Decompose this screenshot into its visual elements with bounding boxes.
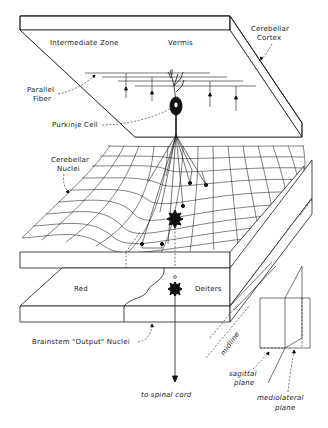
brainstem-output-leader	[138, 326, 152, 342]
mediolateral-plane-leader	[288, 352, 294, 392]
nuclei-terminals	[140, 170, 207, 248]
to-spinal-cord-label: to spinal cord	[141, 391, 192, 399]
vermis-label: Vermis	[168, 39, 193, 47]
nucleus-cell-icon	[167, 210, 183, 228]
sagittal-plane-leader	[253, 353, 268, 369]
cerebellar-nuclei-label-2: Nuclei	[57, 165, 80, 173]
deiters-nucleus-label: Deiters	[195, 285, 222, 293]
purkinje-cell-label: Purkinje Cell	[52, 121, 98, 129]
orientation-planes	[260, 266, 310, 383]
parallel-fiber-label-2: Fiber	[33, 95, 51, 103]
arrowhead-icon	[261, 57, 263, 60]
cerebellar-cortex-label-1: Cerebellar	[251, 25, 289, 33]
arrowhead-icon	[293, 350, 296, 353]
cerebellum-output-diagram: Intermediate Zone Vermis Cerebellar Cort…	[0, 0, 328, 428]
sagittal-plane-label-2: plane	[233, 379, 254, 387]
arrowhead-icon	[151, 324, 154, 327]
arrowhead-icon	[66, 190, 69, 193]
mediolateral-plane-label-1: mediolateral	[257, 394, 304, 402]
intermediate-zone-label: Intermediate Zone	[50, 39, 119, 47]
arrow-down-icon	[173, 376, 178, 382]
brainstem-output-nuclei-label: Brainstem "Output" Nuclei	[32, 338, 130, 346]
mediolateral-plane-label-2: plane	[274, 404, 295, 412]
parallel-fiber-label-1: Parallel	[27, 86, 54, 94]
red-nucleus-label: Red	[74, 285, 88, 293]
midline-label: midline	[219, 330, 241, 357]
cerebellar-nuclei-label-1: Cerebellar	[51, 156, 89, 164]
cerebellar-nuclei-leader	[64, 174, 69, 192]
cerebellar-cortex-label-2: Cortex	[257, 34, 281, 42]
sagittal-plane-label-1: sagittal	[229, 370, 257, 378]
